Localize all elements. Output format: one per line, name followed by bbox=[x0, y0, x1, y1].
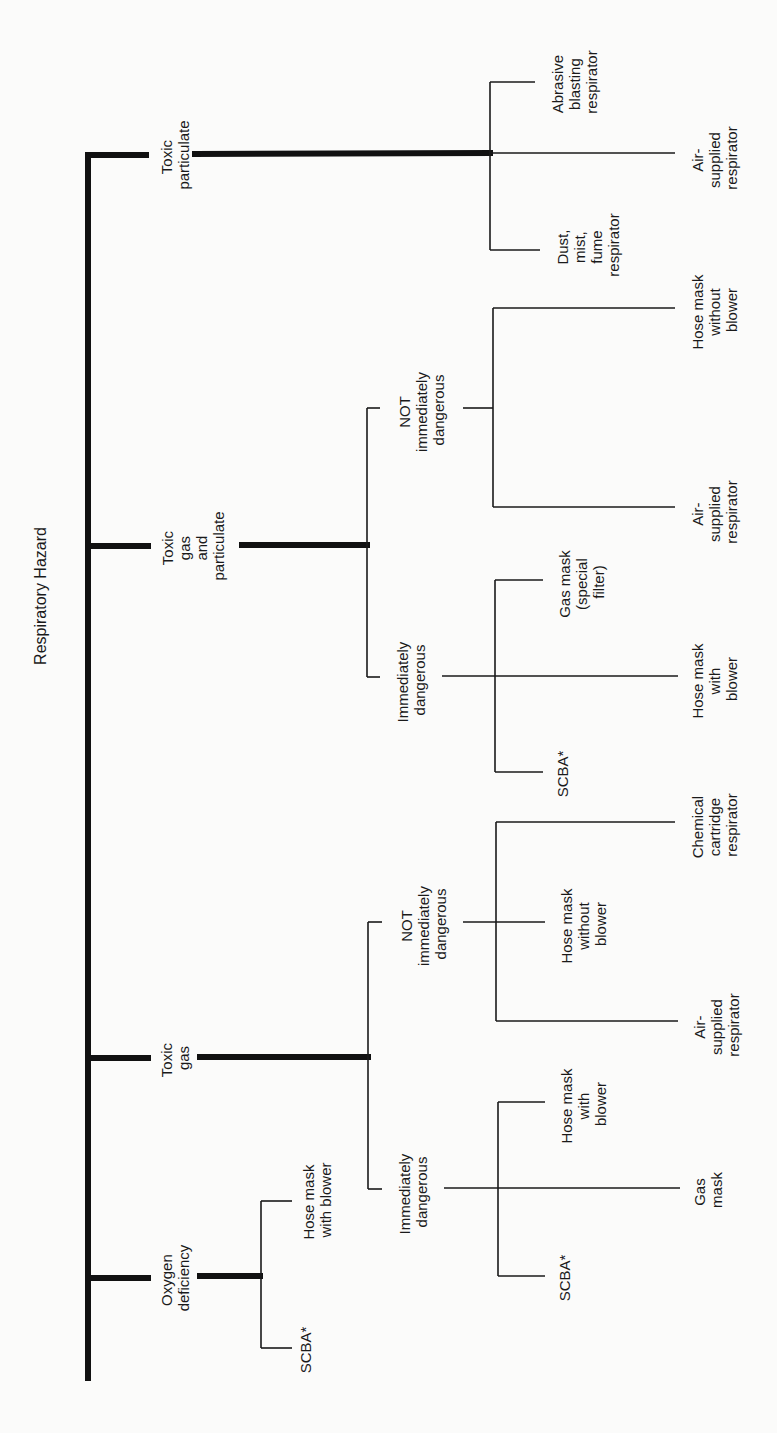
branch-oxygen-deficiency: Oxygen deficiency Hose mask with blower … bbox=[88, 1160, 334, 1373]
hazard-label: Oxygen deficiency bbox=[158, 1244, 192, 1311]
branch-toxic-gas: Toxic gas NOT immediately dangerous Chem… bbox=[88, 792, 742, 1302]
solution-hose-mask-with-blower: Hose mask with blower bbox=[300, 1160, 334, 1239]
condition-immediately-dangerous: Immediately dangerous bbox=[394, 637, 428, 722]
hazard-label: Toxic particulate bbox=[158, 120, 192, 189]
solution-gas-mask: Gas mask bbox=[691, 1172, 725, 1208]
solution-air-supplied-respirator: Air- supplied respirator bbox=[689, 480, 740, 543]
solution-abrasive-blasting-respirator: Abrasive blasting respirator bbox=[549, 50, 600, 113]
solution-dust-mist-fume-respirator: Dust, mist, fume respirator bbox=[554, 213, 622, 276]
diagram-title: Respiratory Hazard bbox=[32, 527, 49, 665]
hazard-label: Toxic gas bbox=[158, 1039, 192, 1077]
solution-hose-mask-without-blower: Hose mask without blower bbox=[558, 884, 609, 963]
condition-not-immediately-dangerous: NOT immediately dangerous bbox=[396, 368, 447, 452]
solution-hose-mask-with-blower: Hose mask with blower bbox=[558, 1064, 609, 1143]
solution-air-supplied-respirator: Air- supplied respirator bbox=[691, 993, 742, 1056]
solution-scba: SCBA* bbox=[297, 1326, 314, 1373]
condition-not-immediately-dangerous: NOT immediately dangerous bbox=[398, 882, 449, 966]
solution-gas-mask-special-filter: Gas mask (special filter) bbox=[556, 546, 607, 618]
branch-toxic-gas-and-particulate: Toxic gas and particulate NOT immediatel… bbox=[88, 270, 740, 797]
solution-hose-mask-with-blower: Hose mask with blower bbox=[689, 639, 740, 718]
respiratory-hazard-decision-tree: Respiratory Hazard Toxic particulate Abr… bbox=[0, 0, 777, 1433]
solution-air-supplied-respirator: Air- supplied respirator bbox=[689, 126, 740, 189]
solution-hose-mask-without-blower: Hose mask without blower bbox=[689, 270, 740, 349]
condition-immediately-dangerous: Immediately dangerous bbox=[396, 1149, 430, 1234]
solution-chemical-cartridge-respirator: Chemical cartridge respirator bbox=[689, 792, 740, 859]
hazard-label: Toxic gas and particulate bbox=[159, 511, 227, 580]
solution-scba: SCBA* bbox=[554, 750, 571, 797]
branch-toxic-particulate: Toxic particulate Abrasive blasting resp… bbox=[88, 50, 740, 276]
solution-scba: SCBA* bbox=[556, 1254, 573, 1301]
